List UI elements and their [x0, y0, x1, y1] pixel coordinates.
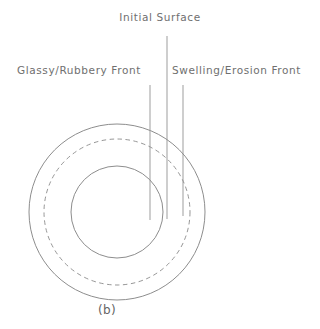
swelling-erosion-front-label: Swelling/Erosion Front — [172, 64, 301, 76]
figure-caption: (b) — [98, 303, 116, 317]
initial-surface-label: Initial Surface — [0, 11, 320, 23]
figure-panel-b: Initial Surface Glassy/Rubbery Front Swe… — [0, 0, 320, 329]
initial-surface-circle — [44, 139, 190, 285]
swelling-erosion-front-circle — [29, 124, 205, 300]
glassy-rubbery-front-circle — [71, 166, 163, 258]
diagram-canvas — [0, 0, 320, 329]
glassy-rubbery-front-label: Glassy/Rubbery Front — [17, 64, 141, 76]
